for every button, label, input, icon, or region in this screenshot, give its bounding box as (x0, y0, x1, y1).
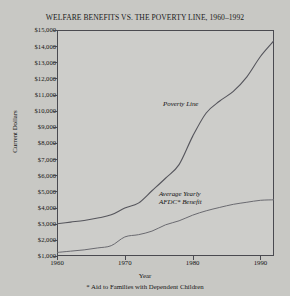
x-axis-label: Year (0, 272, 290, 279)
x-tick-label: 1980 (178, 259, 208, 266)
y-tick-label: $11,000 (10, 91, 56, 98)
welfare-benefits-chart: WELFARE BENEFITS VS. THE POVERTY LINE, 1… (0, 0, 290, 296)
chart-footnote: * Aid to Families with Dependent Childre… (0, 283, 290, 290)
y-tick-label: $4,000 (10, 204, 56, 211)
y-tick-label: $9,000 (10, 123, 56, 130)
y-tick-label: $2,000 (10, 236, 56, 243)
y-tick-label: $3,000 (10, 220, 56, 227)
y-tick-label: $14,000 (10, 43, 56, 50)
x-tick-label: 1990 (245, 259, 275, 266)
chart-title: WELFARE BENEFITS VS. THE POVERTY LINE, 1… (0, 13, 290, 22)
y-tick-label: $6,000 (10, 172, 56, 179)
y-tick-label: $8,000 (10, 139, 56, 146)
y-tick-label: $13,000 (10, 59, 56, 66)
x-tick-label: 1970 (110, 259, 140, 266)
afdc-benefit-series (57, 200, 274, 253)
plot-lines (57, 30, 274, 256)
y-tick-label: $10,000 (10, 107, 56, 114)
annotation-afdc-line2: AFDC* Benefit (159, 198, 202, 206)
y-tick-label: $15,000 (10, 26, 56, 33)
annotation-afdc-benefit: Average Yearly AFDC* Benefit (159, 190, 202, 205)
y-tick-label: $12,000 (10, 75, 56, 82)
x-tick-label: 1960 (42, 259, 72, 266)
annotation-afdc-line1: Average Yearly (159, 190, 202, 198)
y-tick-label: $7,000 (10, 156, 56, 163)
y-tick-label: $5,000 (10, 188, 56, 195)
annotation-poverty-line: Poverty Line (163, 100, 198, 108)
